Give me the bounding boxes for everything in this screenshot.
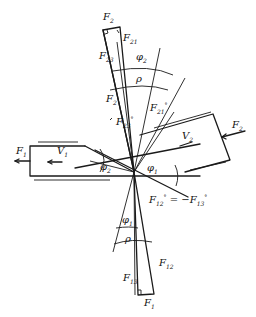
inclined-lines — [75, 144, 200, 197]
upper-cone — [110, 42, 185, 172]
force-diagram — [0, 0, 256, 317]
label-phi2-top: φ2 — [136, 52, 147, 62]
label-f2-top: F2 — [103, 12, 114, 22]
label-f2-right: F2 — [232, 120, 243, 130]
label-phi2-left: φ2 — [100, 162, 111, 172]
label-f12: F12 — [159, 258, 174, 268]
label-rho-top: ρ — [136, 74, 142, 84]
label-v1: V1 — [57, 146, 68, 156]
label-phi1-bottom: φ1 — [122, 215, 133, 225]
label-f23-star: F23° — [116, 117, 134, 127]
label-f13: F13 — [123, 273, 138, 283]
label-f23: F23 — [99, 51, 114, 61]
label-rho-bottom: ρ — [125, 234, 131, 244]
label-v2: V2 — [182, 131, 193, 141]
label-phi1-center: φ1 — [147, 163, 158, 173]
label-f21: F21 — [123, 33, 138, 43]
label-f2-mid: F2 — [106, 94, 117, 104]
label-f1-bottom: F1 — [144, 298, 155, 308]
label-equation: F12° = −F13° — [149, 195, 207, 205]
label-f21-star: F21° — [150, 103, 168, 113]
label-f1-left: F1 — [16, 146, 27, 156]
